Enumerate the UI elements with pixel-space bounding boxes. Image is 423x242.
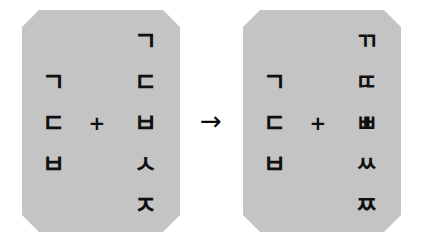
glyph-row: ㅉ [243, 185, 401, 226]
glyph-row: ㄱ ㄷ [22, 62, 180, 103]
source-left-glyph-4: ㅂ [22, 152, 84, 177]
source-panel: ㄱ ㄱ ㄷ ㄷ + ㅂ ㅂ ㅅ ㅈ [22, 10, 180, 232]
glyph-row: ㅂ ㅅ [22, 144, 180, 185]
source-left-glyph-2: ㄱ [22, 70, 84, 95]
result-right-glyph-3: ㅃ [331, 112, 401, 135]
result-right-glyph-2: ㄸ [331, 71, 401, 94]
result-left-glyph-3: ㄷ [243, 111, 305, 136]
transform-arrow-icon: → [189, 107, 233, 135]
source-right-glyph-2: ㄷ [110, 70, 180, 95]
glyph-row: ㅈ [22, 185, 180, 226]
glyph-row: ㄲ [243, 21, 401, 62]
glyph-row: ㄷ + ㅃ [243, 103, 401, 144]
glyph-row: ㄷ + ㅂ [22, 103, 180, 144]
source-right-glyph-1: ㄱ [110, 29, 180, 54]
result-right-glyph-5: ㅉ [331, 194, 401, 217]
result-operator-3: + [305, 113, 331, 133]
result-left-glyph-2: ㄱ [243, 70, 305, 95]
result-glyph-grid: ㄲ ㄱ ㄸ ㄷ + ㅃ ㅂ ㅆ ㅉ [243, 10, 401, 232]
source-left-glyph-3: ㄷ [22, 111, 84, 136]
source-right-glyph-4: ㅅ [110, 152, 180, 177]
source-right-glyph-3: ㅂ [110, 111, 180, 136]
source-right-glyph-5: ㅈ [110, 193, 180, 218]
result-left-glyph-4: ㅂ [243, 152, 305, 177]
source-glyph-grid: ㄱ ㄱ ㄷ ㄷ + ㅂ ㅂ ㅅ ㅈ [22, 10, 180, 232]
source-operator-3: + [84, 113, 110, 133]
glyph-row: ㄱ [22, 21, 180, 62]
result-right-glyph-1: ㄲ [331, 30, 401, 53]
diagram-root: ㄱ ㄱ ㄷ ㄷ + ㅂ ㅂ ㅅ ㅈ [0, 0, 423, 242]
result-panel: ㄲ ㄱ ㄸ ㄷ + ㅃ ㅂ ㅆ ㅉ [243, 10, 401, 232]
result-right-glyph-4: ㅆ [331, 153, 401, 176]
glyph-row: ㅂ ㅆ [243, 144, 401, 185]
glyph-row: ㄱ ㄸ [243, 62, 401, 103]
